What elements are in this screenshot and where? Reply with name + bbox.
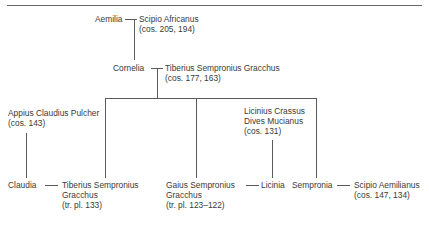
descent-line [157,68,158,98]
top-rule [7,5,422,6]
node-cornelia: Cornelia [113,63,144,73]
node-scipio-africanus: Scipio Africanus (cos. 205, 194) [139,14,199,34]
marriage-line [125,19,137,20]
node-gaius: Gaius Sempronius Gracchus (tr. pl. 123–1… [166,180,235,210]
node-name: Scipio Aemilianus [354,180,420,190]
node-name: Licinia [261,180,285,190]
node-tiberius: Tiberius Sempronius Gracchus (tr. pl. 13… [62,180,139,210]
node-note: (cos. 143) [8,118,99,128]
node-name: Gaius Sempronius [166,180,235,190]
node-note: (tr. pl. 133) [62,200,139,210]
descent-line [272,140,273,178]
node-appius: Appius Claudius Pulcher (cos. 143) [8,108,99,128]
sibling-bar [105,98,317,99]
node-name: Appius Claudius Pulcher [8,108,99,118]
node-tiberius-elder: Tiberius Sempronius Gracchus (cos. 177, … [165,63,280,83]
node-note: (cos. 205, 194) [139,24,199,34]
node-name: Claudia [8,180,36,190]
node-aemilia: Aemilia [95,14,122,24]
descent-line [26,133,27,178]
node-scipio-aemilianus: Scipio Aemilianus (cos. 147, 134) [354,180,420,200]
child-line-sempronia [316,98,317,178]
marriage-line [246,185,259,186]
descent-line [134,19,135,60]
node-note: (tr. pl. 123–122) [166,200,235,210]
node-name: Sempronia [292,180,333,190]
node-name: Scipio Africanus [139,14,199,24]
node-sempronia: Sempronia [292,180,333,190]
node-name: Dives Mucianus [244,116,305,126]
node-note: (cos. 147, 134) [354,190,420,200]
node-name: Tiberius Sempronius [62,180,139,190]
child-line-tiberius [105,98,106,178]
node-note: (cos. 177, 163) [165,73,280,83]
node-claudia: Claudia [8,180,36,190]
node-name: Cornelia [113,63,144,73]
node-name: Aemilia [95,14,122,24]
node-name: Tiberius Sempronius Gracchus [165,63,280,73]
node-licinius: Licinius Crassus Dives Mucianus (cos. 13… [244,106,305,136]
node-name: Gracchus [166,190,235,200]
node-name: Licinius Crassus [244,106,305,116]
node-note: (cos. 131) [244,126,305,136]
node-name: Gracchus [62,190,139,200]
child-line-gaius [196,98,197,178]
marriage-line [45,185,58,186]
node-licinia: Licinia [261,180,285,190]
marriage-line [337,185,350,186]
